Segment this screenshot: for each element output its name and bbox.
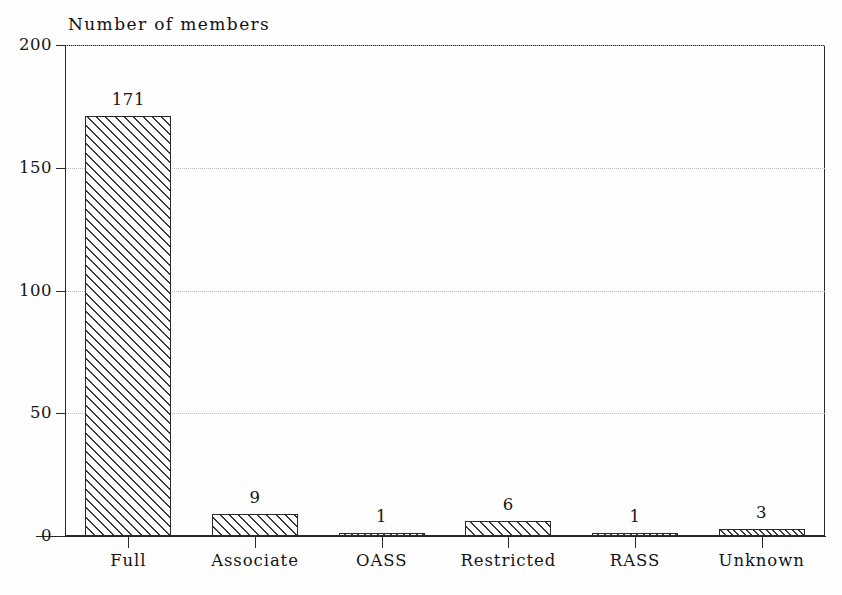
bar [465,521,551,536]
y-tick-label: 200 [6,35,52,54]
y-tick-label: 50 [6,403,52,422]
x-tick-mark [255,537,256,548]
bar-value-label: 3 [756,503,767,522]
bar [592,533,678,536]
gridline [66,168,825,169]
x-tick-mark [128,537,129,548]
bar-value-label: 1 [376,507,387,526]
x-tick-label: RASS [610,551,660,570]
x-tick-mark [508,537,509,548]
gridline [66,45,825,46]
y-tick-mark [56,45,66,46]
y-tick-label: 100 [6,281,52,300]
x-axis-line [36,536,826,537]
bar-value-label: 171 [112,90,145,109]
x-tick-mark [382,537,383,548]
bar-value-label: 6 [503,495,514,514]
bar [719,529,805,536]
bar [85,116,171,536]
bar [212,514,298,536]
x-tick-label: Unknown [719,551,805,570]
bar [339,533,425,536]
x-tick-mark [635,537,636,548]
x-tick-label: Full [110,551,146,570]
y-tick-mark [56,168,66,169]
bar-value-label: 1 [629,507,640,526]
y-tick-label: 0 [6,526,52,545]
x-tick-label: Restricted [461,551,557,570]
x-tick-label: OASS [356,551,407,570]
bar-value-label: 9 [249,488,260,507]
gridline [66,413,825,414]
chart-title: Number of members [68,14,270,34]
y-tick-mark [56,536,66,537]
y-tick-label: 150 [6,158,52,177]
x-tick-label: Associate [211,551,299,570]
y-tick-mark [56,413,66,414]
x-tick-mark [762,537,763,548]
gridline [66,291,825,292]
y-tick-mark [56,291,66,292]
bar-chart: Number of members 050100150200 17191613 … [0,0,842,595]
